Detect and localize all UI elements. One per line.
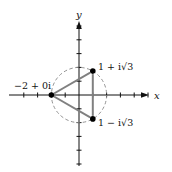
point-label-1-minus-i-root3: 1 − i√3 bbox=[98, 117, 133, 128]
x-axis-label: x bbox=[154, 90, 160, 101]
axes-layer bbox=[9, 21, 149, 166]
point-label-neg2: −2 + 0i bbox=[14, 80, 51, 91]
y-axis-arrow-icon bbox=[76, 21, 82, 29]
triangle-side bbox=[54, 73, 90, 94]
point-dot-p2 bbox=[90, 68, 96, 74]
point-dot-p3 bbox=[90, 116, 96, 122]
y-axis-label: y bbox=[75, 9, 82, 20]
complex-plane-diagram: x y −2 + 0i 1 + i√3 1 − i√3 bbox=[0, 0, 172, 172]
triangle-side bbox=[54, 96, 90, 117]
point-dot-p1 bbox=[49, 92, 55, 98]
point-label-1-plus-i-root3: 1 + i√3 bbox=[98, 61, 133, 72]
